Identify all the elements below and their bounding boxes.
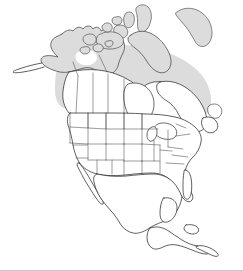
small-arctic-islet-b	[80, 47, 90, 54]
melville-island	[112, 17, 122, 25]
banks-island	[83, 34, 96, 45]
map-figure: North America	[0, 0, 243, 271]
central-america	[147, 227, 209, 254]
small-arctic-islet-a	[93, 44, 103, 52]
florida-peninsula	[183, 170, 192, 199]
caribbean-islet	[184, 225, 199, 234]
newfoundland-island	[208, 104, 222, 118]
maritimes-region	[202, 117, 218, 133]
small-arctic-islet-c	[105, 41, 113, 47]
ellesmere-island	[136, 5, 152, 32]
north-america-map-svg	[0, 0, 243, 271]
aleutian-chain	[13, 63, 44, 73]
yucatan-peninsula	[160, 198, 177, 223]
greenland-edge	[176, 8, 212, 46]
prince-patrick-island	[102, 23, 112, 32]
axel-heiberg-island	[124, 12, 135, 28]
